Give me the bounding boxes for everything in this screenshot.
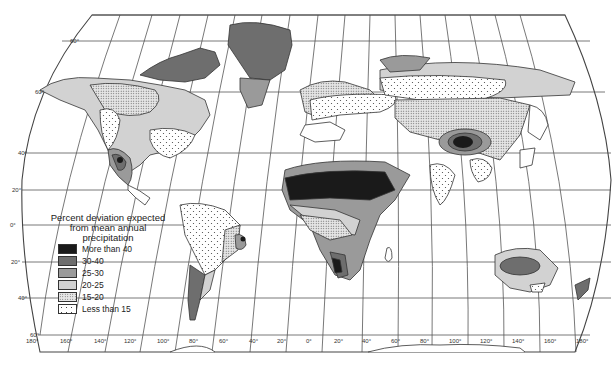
lat-label-0: 0° — [10, 222, 16, 228]
lon-label: 140° — [94, 338, 107, 344]
lon-label: 60° — [391, 338, 401, 344]
legend-item-15-20: 15-20 — [58, 291, 178, 303]
legend-label: 15-20 — [82, 292, 104, 302]
legend-item-30-40: 30-40 — [58, 255, 178, 267]
lon-label: 120° — [480, 338, 493, 344]
legend-label: More than 40 — [82, 244, 132, 254]
lon-label: 160° — [60, 338, 73, 344]
legend-title-line: precipitation — [38, 233, 178, 243]
legend-item-less-than-15: Less than 15 — [58, 303, 178, 315]
legend-item-25-30: 25-30 — [58, 267, 178, 279]
legend-label: Less than 15 — [82, 304, 131, 314]
legend-swatch — [58, 292, 77, 302]
lon-label: 120° — [124, 338, 137, 344]
lon-label: 0° — [306, 338, 312, 344]
lon-label: 40° — [249, 338, 259, 344]
lat-label-50n: 60° — [35, 89, 45, 95]
australia — [495, 248, 590, 300]
legend-item-20-25: 20-25 — [58, 279, 178, 291]
lon-label: 20° — [334, 338, 344, 344]
lat-label-60n: 60° — [70, 38, 80, 44]
legend-swatch — [58, 256, 77, 266]
lon-label: 20° — [277, 338, 287, 344]
north-america — [40, 78, 210, 206]
lat-label-40s: 40° — [18, 295, 28, 301]
lon-label: 140° — [512, 338, 525, 344]
legend-label: 20-25 — [82, 280, 104, 290]
lat-label-20n: 20° — [12, 187, 22, 193]
legend-swatch — [58, 268, 77, 278]
antarctica — [170, 344, 525, 352]
lon-label: 60° — [219, 338, 229, 344]
legend-swatch — [58, 280, 77, 290]
lon-label: 100° — [449, 338, 462, 344]
legend-item-more-than-40: More than 40 — [58, 243, 178, 255]
longitude-labels: 180° 160° 140° 120° 100° 80° 60° 40° 20°… — [26, 338, 589, 344]
legend-label: 30-40 — [82, 256, 104, 266]
legend-title: Percent deviation expected from mean ann… — [38, 213, 178, 243]
lon-label: 80° — [189, 338, 199, 344]
lon-label: 40° — [362, 338, 372, 344]
lon-label: 180° — [576, 338, 589, 344]
lat-label-20s: 20° — [11, 259, 21, 265]
lat-label-40n: 40° — [18, 150, 28, 156]
lon-label: 180° — [26, 338, 39, 344]
lon-label: 160° — [544, 338, 557, 344]
asia — [380, 55, 575, 205]
legend-swatch — [58, 244, 77, 254]
legend-swatch — [58, 304, 77, 314]
map-legend: Percent deviation expected from mean ann… — [38, 213, 178, 315]
lon-label: 100° — [157, 338, 170, 344]
lon-label: 80° — [420, 338, 430, 344]
legend-label: 25-30 — [82, 268, 104, 278]
